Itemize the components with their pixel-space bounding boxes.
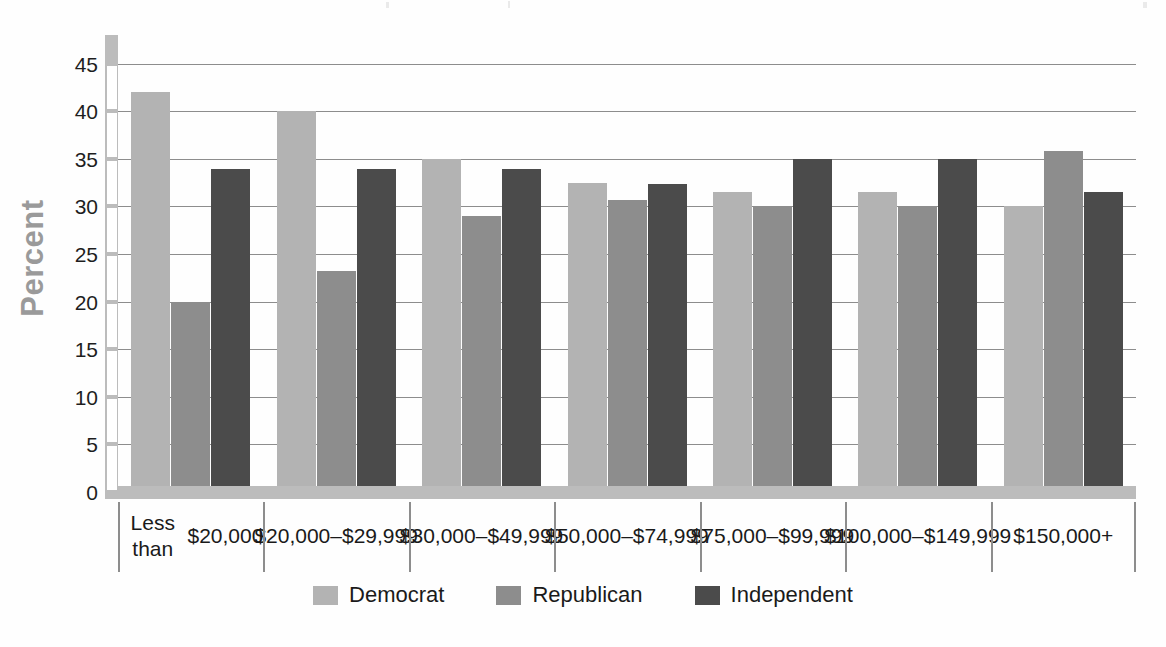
legend-label: Democrat [349,582,444,608]
legend-swatch-icon [496,586,521,605]
gridline [118,159,1136,160]
category-separator [1134,502,1136,572]
bar-independent-group-3 [502,169,541,492]
bar-republican-group-1 [171,302,210,492]
legend-label: Republican [532,582,642,608]
y-tick-label: 15 [52,339,98,360]
x-axis-category-label: $75,000–$99,999 [700,500,845,572]
bar-democrat-group-1 [131,92,170,492]
gridline [118,111,1136,112]
plot-area [118,35,1136,492]
bar-republican-group-7 [1044,151,1083,492]
y-tick-label: 20 [52,292,98,313]
bar-independent-group-5 [793,159,832,492]
x-axis-label-row: Less than$20,000$20,000–$29,999$30,000–$… [118,500,1136,572]
scan-artifact [1143,2,1147,8]
bar-democrat-group-6 [858,192,897,492]
category-separator [991,502,993,572]
x-axis-category-label: $50,000–$74,999 [554,500,699,572]
bar-democrat-group-7 [1004,206,1043,492]
legend-item-democrat[interactable]: Democrat [313,582,444,608]
bar-republican-group-5 [753,206,792,492]
axis-tick-notch [107,446,117,490]
bar-independent-group-2 [357,169,396,492]
bar-democrat-group-2 [277,111,316,492]
bar-democrat-group-4 [568,183,607,492]
axis-tick-notch [107,113,117,157]
scan-artifact [386,2,389,8]
y-tick-label: 30 [52,196,98,217]
axis-tick-notch [107,399,117,443]
y-tick-label: 0 [52,482,98,503]
axis-tick-notch [107,161,117,205]
bar-republican-group-2 [317,271,356,492]
bar-democrat-group-3 [422,159,461,492]
category-separator [845,502,847,572]
chart-figure: Percent 051015202530354045 Less than$20,… [0,0,1166,647]
x-axis-category-label: $100,000–$149,999 [845,500,990,572]
category-separator [263,502,265,572]
bar-independent-group-1 [211,169,250,492]
legend-swatch-icon [313,586,338,605]
bar-independent-group-7 [1084,192,1123,492]
axis-tick-notch [107,304,117,348]
y-tick-label: 5 [52,434,98,455]
bar-republican-group-6 [898,206,937,492]
x-axis-category-label: $150,000+ [991,500,1136,572]
legend-label: Independent [731,582,853,608]
x-axis-category-label: Less than$20,000 [118,500,263,572]
bar-republican-group-4 [608,200,647,492]
bar-democrat-group-5 [713,192,752,492]
category-separator [118,502,120,572]
axis-tick-notch [107,208,117,252]
gridline [118,64,1136,65]
y-tick-label: 35 [52,149,98,170]
bar-independent-group-4 [648,184,687,492]
y-tick-label: 40 [52,101,98,122]
y-tick-label: 25 [52,244,98,265]
category-separator [409,502,411,572]
category-separator [554,502,556,572]
legend-item-independent[interactable]: Independent [695,582,853,608]
category-separator [700,502,702,572]
axis-tick-notch [107,256,117,300]
bar-republican-group-3 [462,216,501,492]
y-axis-tick-labels: 051015202530354045 [52,0,98,647]
x-axis-category-label: $30,000–$49,999 [409,500,554,572]
x-axis-category-label: $20,000–$29,999 [263,500,408,572]
bar-independent-group-6 [938,159,977,492]
y-tick-label: 10 [52,387,98,408]
axis-tick-notch [107,351,117,395]
legend-swatch-icon [695,586,720,605]
axis-tick-notch [107,66,117,110]
chart-legend: DemocratRepublicanIndependent [0,578,1166,612]
y-tick-label: 45 [52,54,98,75]
y-axis-title: Percent [13,163,53,353]
scan-artifact [508,1,510,8]
x-axis-baseline [105,486,1136,499]
legend-item-republican[interactable]: Republican [496,582,642,608]
